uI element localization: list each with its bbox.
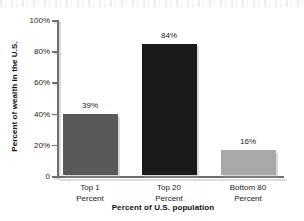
y-tick-label: 100% bbox=[30, 16, 50, 25]
bar-chart: Percent of wealth in the U.S. 020%40%60%… bbox=[0, 0, 304, 221]
y-tick-label: 20% bbox=[34, 140, 50, 149]
y-tick-label: 0 bbox=[46, 172, 50, 181]
y-tick-mark bbox=[52, 176, 58, 178]
y-tick-mark bbox=[52, 51, 58, 53]
scan-artifact-band bbox=[0, 0, 304, 7]
y-tick-label: 80% bbox=[34, 47, 50, 56]
x-tick-label-line: Top 1 bbox=[76, 183, 104, 194]
y-axis-title: Percent of wealth in the U.S. bbox=[10, 17, 19, 177]
y-tick-shadow bbox=[54, 84, 60, 86]
y-tick-shadow bbox=[54, 53, 60, 55]
y-tick-shadow bbox=[54, 178, 60, 180]
y-tick-label: 40% bbox=[34, 109, 50, 118]
bar-value-label: 39% bbox=[82, 101, 98, 110]
bar-value-label: 84% bbox=[161, 31, 177, 40]
y-tick-mark bbox=[52, 82, 58, 84]
y-tick-mark bbox=[52, 114, 58, 116]
y-axis-line bbox=[57, 20, 59, 177]
x-tick-label-line: Top 20 bbox=[155, 183, 183, 194]
y-tick-label: 60% bbox=[34, 78, 50, 87]
bar bbox=[142, 44, 197, 175]
plot-area: 020%40%60%80%100% 39%84%16% Top 1Percent… bbox=[58, 20, 284, 176]
x-tick-label-line: Bottom 80 bbox=[230, 183, 266, 194]
x-tick-label: Top 1Percent bbox=[76, 183, 104, 204]
y-tick-mark bbox=[52, 145, 58, 147]
y-axis-shadow bbox=[59, 22, 61, 179]
x-axis-shadow bbox=[60, 179, 287, 181]
y-tick-shadow bbox=[54, 116, 60, 118]
bar bbox=[221, 150, 276, 175]
bar bbox=[63, 114, 118, 175]
x-axis-title: Percent of U.S. population bbox=[38, 203, 288, 212]
bar-value-label: 16% bbox=[240, 137, 256, 146]
y-tick-shadow bbox=[54, 22, 60, 24]
y-tick-mark bbox=[52, 20, 58, 22]
y-tick-shadow bbox=[54, 147, 60, 149]
x-tick-label: Bottom 80Percent bbox=[230, 183, 266, 204]
x-tick-label: Top 20Percent bbox=[155, 183, 183, 204]
